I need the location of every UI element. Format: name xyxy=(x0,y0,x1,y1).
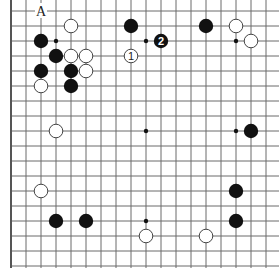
black-stone xyxy=(34,34,48,48)
black-stone xyxy=(64,64,78,78)
white-stone xyxy=(139,229,153,243)
black-stone xyxy=(199,19,213,33)
go-board-diagram: A 12 xyxy=(0,0,279,268)
star-point xyxy=(234,39,238,43)
white-stone xyxy=(64,49,78,63)
star-point xyxy=(144,39,148,43)
white-stone xyxy=(79,49,93,63)
point-label: A xyxy=(36,4,47,19)
white-stone xyxy=(229,19,243,33)
white-stone xyxy=(49,124,63,138)
black-stone xyxy=(49,49,63,63)
white-stone xyxy=(64,19,78,33)
black-stone xyxy=(229,214,243,228)
black-stone xyxy=(34,64,48,78)
point-labels: A xyxy=(35,3,47,19)
black-stone xyxy=(64,79,78,93)
white-stone xyxy=(199,229,213,243)
star-point xyxy=(54,39,58,43)
black-stone xyxy=(244,124,258,138)
black-stone xyxy=(124,19,138,33)
white-stone xyxy=(34,184,48,198)
black-stone xyxy=(229,184,243,198)
move-number: 1 xyxy=(128,50,134,62)
star-point xyxy=(144,219,148,223)
white-stone xyxy=(244,34,258,48)
white-stone xyxy=(34,79,48,93)
black-stone xyxy=(49,214,63,228)
star-point xyxy=(144,129,148,133)
star-point xyxy=(234,129,238,133)
move-number: 2 xyxy=(158,35,164,47)
white-stone xyxy=(79,64,93,78)
black-stone xyxy=(79,214,93,228)
